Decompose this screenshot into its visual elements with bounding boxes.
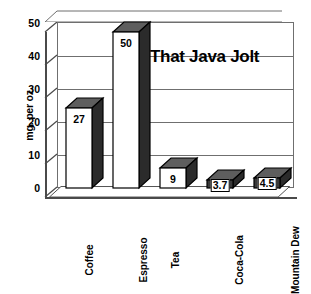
x-label-mountain-dew-wrap: Mountain Dew: [254, 200, 280, 258]
x-label-mountain-dew-line1: Mountain: [290, 249, 301, 293]
x-label-coca-cola: Coca-Cola: [234, 235, 245, 284]
x-label-mountain-dew-line2: Dew: [290, 226, 301, 247]
x-label-mountain-dew: Mountain Dew: [290, 226, 301, 294]
x-label-coffee-wrap: Coffee: [66, 200, 92, 258]
x-label-tea: Tea: [170, 252, 181, 269]
x-label-tea-wrap: Tea: [160, 200, 186, 258]
x-label-espresso: Espresso: [138, 237, 149, 282]
x-label-espresso-wrap: Espresso: [113, 200, 139, 258]
x-label-coffee: Coffee: [84, 244, 95, 275]
x-label-coca-cola-wrap: Coca-Cola: [207, 200, 233, 258]
